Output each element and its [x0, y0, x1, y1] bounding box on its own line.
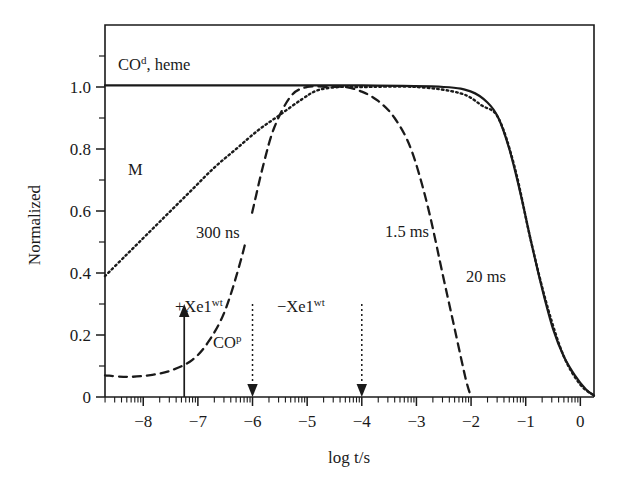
y-tick-label: 0.4 — [70, 264, 92, 283]
y-tick-label: 0.2 — [70, 326, 91, 345]
label-m: M — [128, 160, 143, 179]
x-tick-label: −7 — [189, 412, 208, 431]
x-axis-tick-labels: −8−7−6−5−4−3−2−10 — [134, 412, 584, 431]
y-axis-title: Normalized — [25, 184, 44, 265]
x-tick-label: −1 — [517, 412, 535, 431]
label-20-ms: 20 ms — [466, 267, 506, 286]
x-tick-label: −8 — [134, 412, 152, 431]
label-1-5-ms: 1.5 ms — [385, 222, 429, 241]
x-tick-label: −6 — [243, 412, 261, 431]
x-tick-label: −5 — [298, 412, 316, 431]
x-tick-label: 0 — [576, 412, 585, 431]
y-tick-label: 0.8 — [70, 140, 91, 159]
y-tick-label: 0.6 — [70, 202, 91, 221]
x-tick-label: −2 — [462, 412, 480, 431]
label-300-ns: 300 ns — [196, 223, 240, 242]
x-tick-label: −3 — [407, 412, 425, 431]
x-tick-label: −4 — [353, 412, 372, 431]
label-co-d-heme: COd, heme — [118, 54, 190, 74]
figure-container: −8−7−6−5−4−3−2−10 00.20.40.60.81.0 COd, … — [0, 0, 625, 485]
scientific-chart: −8−7−6−5−4−3−2−10 00.20.40.60.81.0 COd, … — [0, 0, 625, 485]
y-tick-label: 0 — [83, 388, 92, 407]
y-tick-label: 1.0 — [70, 78, 91, 97]
x-axis-title: log t/s — [328, 448, 370, 467]
